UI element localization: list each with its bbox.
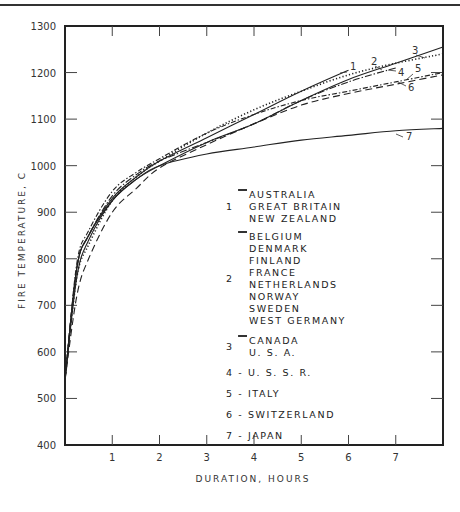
- y-tick-label: 1200: [31, 68, 56, 79]
- legend-names: AUSTRALIA GREAT BRITAIN NEW ZEALAND: [249, 189, 342, 225]
- x-tick-label: 1: [109, 452, 115, 463]
- legend-entry: SWEDEN: [249, 303, 346, 315]
- curve-label-4: 4: [398, 67, 404, 78]
- legend-names: CANADA U. S. A.: [249, 335, 299, 359]
- y-tick-label: 800: [37, 254, 56, 265]
- legend-group-2: 2 BELGIUM DENMARK FINLAND FRANCE NETHERL…: [226, 231, 346, 327]
- legend-entry-ussr: 4 - U. S. S. R.: [226, 367, 346, 379]
- y-tick-label: 900: [37, 207, 56, 218]
- y-tick-label: 400: [37, 440, 56, 451]
- curve-label-6: 6: [408, 82, 414, 93]
- y-axis-title: FIRE TEMPERATURE, C: [17, 171, 27, 309]
- x-tick-label: 2: [156, 452, 162, 463]
- y-tick-label: 1000: [31, 161, 56, 172]
- x-tick-label: 7: [393, 452, 399, 463]
- legend-entry: AUSTRALIA: [249, 189, 342, 201]
- x-tick-label: 5: [298, 452, 304, 463]
- x-axis-title: DURATION, HOURS: [196, 474, 311, 484]
- x-tick-label: 4: [251, 452, 257, 463]
- x-tick-label: 6: [345, 452, 351, 463]
- curve-label-2: 2: [371, 56, 377, 67]
- y-tick-label: 1300: [31, 21, 56, 32]
- legend-entry: U. S. A.: [249, 347, 299, 359]
- curve-label-5: 5: [415, 63, 421, 74]
- y-tick-label: 700: [37, 300, 56, 311]
- legend-entry-switzerland: 6 - SWITZERLAND: [226, 409, 346, 421]
- legend-group-1: 1 AUSTRALIA GREAT BRITAIN NEW ZEALAND: [226, 189, 346, 225]
- legend-group-3: 3 CANADA U. S. A.: [226, 335, 346, 359]
- legend-entry: CANADA: [249, 335, 299, 347]
- legend: 1 AUSTRALIA GREAT BRITAIN NEW ZEALAND 2 …: [226, 189, 346, 451]
- legend-entry: BELGIUM: [249, 231, 346, 243]
- leader-line: [340, 72, 347, 73]
- legend-entry: FRANCE: [249, 267, 346, 279]
- legend-entry: WEST GERMANY: [249, 315, 346, 327]
- y-tick-label: 600: [37, 347, 56, 358]
- curve-label-1: 1: [350, 61, 356, 72]
- legend-entry: DENMARK: [249, 243, 346, 255]
- legend-entry: NEW ZEALAND: [249, 213, 342, 225]
- y-tick-label: 1100: [31, 114, 56, 125]
- x-tick-label: 3: [204, 452, 210, 463]
- brace-icon: [238, 231, 247, 233]
- brace-icon: [238, 335, 247, 337]
- brace-icon: [238, 189, 247, 191]
- legend-entry: NETHERLANDS: [249, 279, 346, 291]
- legend-entry: FINLAND: [249, 255, 346, 267]
- legend-number: 2: [226, 273, 238, 285]
- leader-line: [396, 134, 403, 137]
- legend-entry: GREAT BRITAIN: [249, 201, 342, 213]
- legend-entry: NORWAY: [249, 291, 346, 303]
- curve-label-3: 3: [412, 45, 418, 56]
- legend-names: BELGIUM DENMARK FINLAND FRANCE NETHERLAN…: [249, 231, 346, 327]
- y-tick-label: 500: [37, 393, 56, 404]
- legend-number: 1: [226, 201, 238, 213]
- legend-number: 3: [226, 341, 238, 353]
- curve-label-7: 7: [406, 131, 412, 142]
- legend-entry-japan: 7 - JAPAN: [226, 430, 346, 442]
- leader-line: [388, 70, 396, 71]
- legend-entry-italy: 5 - ITALY: [226, 388, 346, 400]
